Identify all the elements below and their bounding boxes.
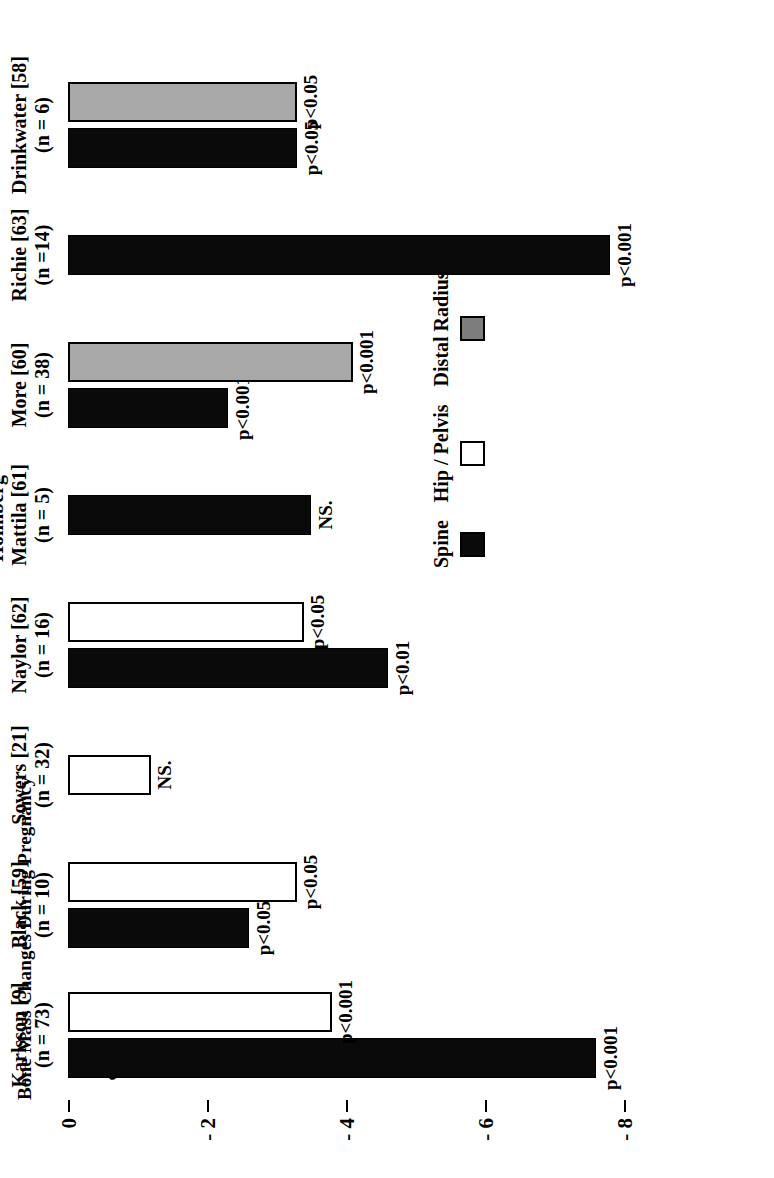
legend-swatch: [460, 441, 485, 466]
bar-group-sample-size: (n = 16): [31, 597, 54, 694]
figure-canvas: Bone Mass Changes During Pregnancy % 0- …: [0, 0, 774, 1178]
bar-group-label: Black [59](n = 10): [8, 861, 54, 948]
legend-item: Distal Radius: [430, 271, 485, 386]
bar-group-label: Drinkwater [58](n = 6): [8, 56, 54, 194]
significance-label: NS.: [316, 500, 335, 529]
y-axis-tick: - 4: [346, 1100, 348, 1112]
significance-label: p<0.001: [615, 223, 634, 287]
bar-group-label: Naylor [62](n = 16): [8, 597, 54, 694]
bar-group-label: Richie [63](n =14): [8, 209, 54, 302]
bar-group-label-line: Karlsson [9]: [8, 983, 30, 1088]
bar: p<0.001: [68, 992, 332, 1032]
bar: p<0.05: [68, 908, 249, 948]
bar-group-label-line: Sowers [21]: [8, 725, 30, 824]
bar-group-label-line: More [60]: [8, 343, 30, 428]
bar-group-sample-size: (n = 6): [31, 56, 54, 194]
bar-group-label-line: Naylor [62]: [8, 597, 30, 694]
y-axis-tick-label: - 4: [337, 1118, 358, 1141]
y-axis-tick: - 2: [207, 1100, 209, 1112]
legend-label: Spine: [430, 520, 453, 568]
y-axis-tick-label: - 2: [198, 1118, 219, 1141]
bar-group-label-line: Drinkwater [58]: [8, 56, 30, 194]
legend-swatch: [460, 532, 485, 557]
bar-group-label-line: Richie [63]: [8, 209, 30, 302]
bar-group-sample-size: (n = 38): [31, 343, 54, 428]
significance-label: p<0.001: [336, 980, 355, 1044]
bar: p<0.05: [68, 862, 297, 902]
legend-item: Hip / Pelvis: [430, 404, 485, 502]
bar: p<0.05: [68, 602, 304, 642]
bar-group-label: More [60](n = 38): [8, 343, 54, 428]
bar-group-sample-size: (n =14): [31, 209, 54, 302]
legend-item: Spine: [430, 520, 485, 568]
bar: p<0.05: [68, 82, 297, 122]
bar: p<0.001: [68, 388, 228, 428]
bar: p<0.05: [68, 128, 297, 168]
bar-group-label: Karlsson [9](n = 73): [8, 983, 54, 1088]
bar-group: Richie [63](n =14)p<0.001: [68, 235, 69, 275]
bar-group-label: Holmberg-Mattila [61](n = 5): [0, 464, 54, 566]
significance-label: p<0.05: [254, 901, 273, 956]
bar-group-sample-size: (n = 5): [31, 464, 54, 566]
legend-swatch: [460, 316, 485, 341]
bar-group: More [60](n = 38)p<0.001p<0.001: [68, 342, 69, 428]
significance-label: p<0.05: [301, 75, 320, 130]
significance-label: NS.: [155, 760, 174, 789]
bar-group-label-line: Black [59]: [8, 861, 30, 948]
bar-group: Sowers [21](n = 32)NS.: [68, 755, 69, 795]
y-axis-tick: - 6: [485, 1100, 487, 1112]
bar: p<0.001: [68, 235, 610, 275]
significance-label: p<0.01: [393, 641, 412, 696]
bar-group-sample-size: (n = 73): [31, 983, 54, 1088]
bar-group: Black [59](n = 10)p<0.05p<0.05: [68, 862, 69, 948]
bar-group-label: Sowers [21](n = 32): [8, 725, 54, 824]
significance-label: p<0.05: [301, 855, 320, 910]
bar-group-label-line: Holmberg-: [0, 468, 7, 561]
significance-label: p<0.05: [308, 595, 327, 650]
legend-label: Hip / Pelvis: [430, 404, 453, 502]
bar-group-sample-size: (n = 10): [31, 861, 54, 948]
bar: p<0.001: [68, 342, 353, 382]
y-axis-tick-label: - 8: [615, 1118, 636, 1141]
bar-group-sample-size: (n = 32): [31, 725, 54, 824]
bar: NS.: [68, 755, 151, 795]
bar-group: Holmberg-Mattila [61](n = 5)NS.: [68, 495, 69, 535]
y-axis-tick-label: 0: [59, 1118, 80, 1129]
bar-group-label-line: Mattila [61]: [8, 464, 31, 566]
significance-label: p<0.001: [601, 1026, 620, 1090]
bar-group: Naylor [62](n = 16)p<0.01p<0.05: [68, 602, 69, 688]
bar: p<0.01: [68, 648, 388, 688]
chart-legend: SpineHip / PelvisDistal Radius: [430, 271, 485, 568]
legend-label: Distal Radius: [430, 271, 453, 386]
y-axis-tick-label: - 6: [476, 1118, 497, 1141]
bar: p<0.001: [68, 1038, 596, 1078]
bar: NS.: [68, 495, 311, 535]
y-axis-tick: - 8: [624, 1100, 626, 1112]
significance-label: p<0.001: [233, 376, 252, 440]
plot-area: % 0- 2- 4- 6- 8 Karlsson [9](n = 73)p<0.…: [68, 60, 628, 1100]
bar-group: Drinkwater [58](n = 6)p<0.05p<0.05: [68, 82, 69, 168]
y-axis-tick: 0: [68, 1100, 70, 1112]
significance-label: p<0.001: [357, 330, 376, 394]
bar-group: Karlsson [9](n = 73)p<0.001p<0.001: [68, 992, 69, 1078]
